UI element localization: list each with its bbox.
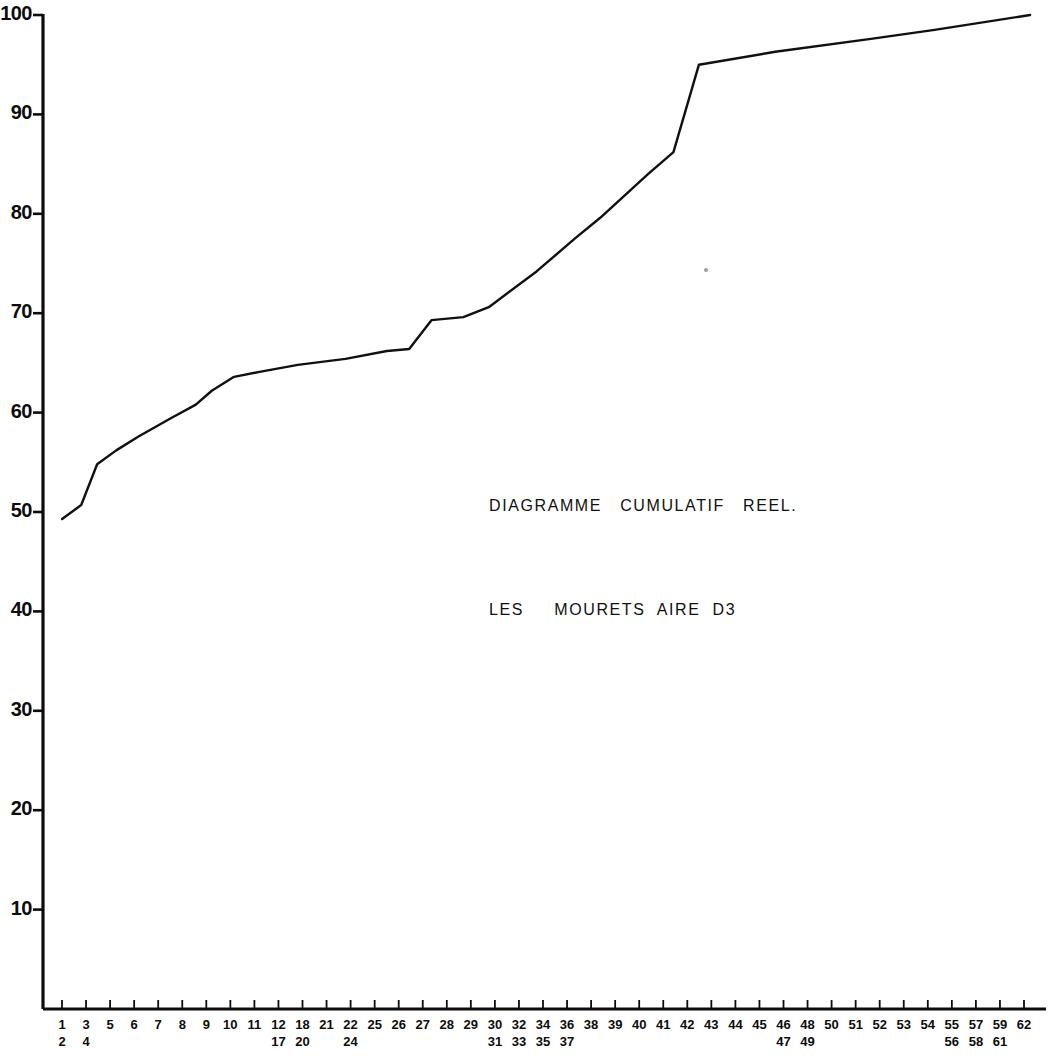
x-axis-tick-label: 53	[897, 1017, 911, 1032]
x-axis-tick-label: 29	[464, 1017, 478, 1032]
x-axis-tick-label-secondary: 37	[560, 1034, 574, 1049]
x-axis-tick-label: 6	[131, 1017, 138, 1032]
x-axis-tick-label: 62	[1017, 1017, 1031, 1032]
x-axis-tick-label-secondary: 31	[488, 1034, 502, 1049]
x-axis-tick-label: 10	[223, 1017, 237, 1032]
x-axis-tick-label: 7	[155, 1017, 162, 1032]
y-axis-tick-label: 70	[11, 300, 32, 323]
y-axis-tick-label: 30	[11, 698, 32, 721]
x-axis-tick-label: 50	[824, 1017, 838, 1032]
paper-speck-artifact	[704, 268, 708, 272]
x-axis-tick-label: 39	[608, 1017, 622, 1032]
x-axis-tick-label-secondary: 4	[82, 1034, 89, 1049]
x-axis-tick-label-secondary: 56	[945, 1034, 959, 1049]
x-axis-tick-label-secondary: 17	[271, 1034, 285, 1049]
y-axis-tick-label: 90	[11, 101, 32, 124]
x-axis-tick-label: 32	[512, 1017, 526, 1032]
x-axis-tick-label: 43	[704, 1017, 718, 1032]
x-axis-tick-label: 21	[319, 1017, 333, 1032]
x-axis-tick-label: 8	[179, 1017, 186, 1032]
x-axis-tick-label-secondary: 47	[776, 1034, 790, 1049]
x-axis-tick-label: 11	[248, 1017, 262, 1032]
x-axis-tick-label: 36	[560, 1017, 574, 1032]
chart-title-annotation: DIAGRAMME CUMULATIF REEL.	[489, 497, 797, 515]
x-axis-tick-label: 57	[969, 1017, 983, 1032]
x-axis-tick-label: 40	[632, 1017, 646, 1032]
x-axis-tick-label: 9	[203, 1017, 210, 1032]
x-axis-tick-label-secondary: 33	[512, 1034, 526, 1049]
y-axis-tick-label: 50	[11, 499, 32, 522]
data-series-line	[62, 15, 1030, 519]
y-axis-tick-label: 80	[11, 201, 32, 224]
x-axis-tick-label: 38	[584, 1017, 598, 1032]
x-axis-tick-label: 12	[271, 1017, 285, 1032]
x-axis-tick-label: 41	[656, 1017, 670, 1032]
x-axis-tick-label: 26	[391, 1017, 405, 1032]
x-axis-tick-label: 44	[728, 1017, 742, 1032]
x-axis-tick-label-secondary: 20	[295, 1034, 309, 1049]
x-axis-tick-label: 1	[58, 1017, 65, 1032]
y-axis-tick-label: 20	[11, 797, 32, 820]
x-axis-tick-label: 48	[800, 1017, 814, 1032]
x-axis-tick-label: 45	[752, 1017, 766, 1032]
x-axis-tick-label: 28	[440, 1017, 454, 1032]
x-axis-tick-label: 5	[106, 1017, 113, 1032]
x-axis-tick-label: 30	[488, 1017, 502, 1032]
x-axis-tick-label-secondary: 35	[536, 1034, 550, 1049]
chart-subtitle-annotation: LES MOURETS AIRE D3	[489, 601, 736, 619]
x-axis-tick-label: 22	[343, 1017, 357, 1032]
chart-canvas: 102030405060708090100 123456789101112171…	[0, 0, 1052, 1060]
x-axis-tick-label: 55	[945, 1017, 959, 1032]
x-axis-tick-label: 27	[416, 1017, 430, 1032]
x-axis-ticks	[62, 1000, 1024, 1009]
x-axis-tick-label: 34	[536, 1017, 550, 1032]
x-axis-tick-label: 3	[82, 1017, 89, 1032]
y-axis-tick-label: 100	[0, 2, 32, 25]
x-axis-tick-label-secondary: 24	[343, 1034, 357, 1049]
x-axis-tick-label-secondary: 58	[969, 1034, 983, 1049]
x-axis-tick-label: 54	[921, 1017, 935, 1032]
x-axis-tick-label: 25	[367, 1017, 381, 1032]
x-axis-tick-label-secondary: 2	[58, 1034, 65, 1049]
x-axis-tick-label: 51	[848, 1017, 862, 1032]
cumulative-curve-plot	[0, 0, 1052, 1060]
x-axis-tick-label-secondary: 49	[800, 1034, 814, 1049]
x-axis-tick-label-secondary: 61	[993, 1034, 1007, 1049]
y-axis-tick-label: 60	[11, 400, 32, 423]
x-axis-tick-label: 42	[680, 1017, 694, 1032]
x-axis-tick-label: 59	[993, 1017, 1007, 1032]
x-axis-tick-label: 46	[776, 1017, 790, 1032]
y-axis-tick-label: 10	[11, 897, 32, 920]
x-axis-tick-label: 52	[872, 1017, 886, 1032]
y-axis-tick-label: 40	[11, 598, 32, 621]
x-axis-tick-label: 18	[295, 1017, 309, 1032]
